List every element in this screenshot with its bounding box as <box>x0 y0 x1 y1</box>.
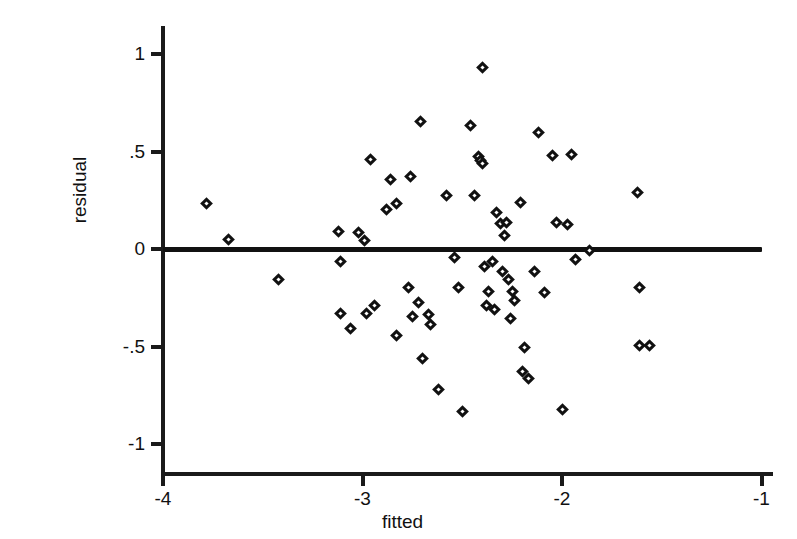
y-axis-tick-label-text: 1 <box>103 44 145 63</box>
x-axis-tick <box>361 476 365 486</box>
y-axis-tick-label: 1 <box>95 44 145 64</box>
x-axis-tick-label: -2 <box>532 489 592 508</box>
x-axis-title-text: fitted <box>382 512 423 532</box>
y-axis-title: residual <box>70 120 90 260</box>
y-axis-tick-label: -1 <box>95 434 145 454</box>
y-axis-tick-label-text: -1 <box>103 434 145 453</box>
y-axis-tick <box>151 442 161 446</box>
zero-reference-line <box>163 247 762 252</box>
x-axis-tick-label: -1 <box>732 489 792 508</box>
x-axis-tick-label: -4 <box>133 489 193 508</box>
y-axis-tick-label: -.5 <box>95 337 145 357</box>
y-axis-tick-label-text: .5 <box>103 142 145 161</box>
x-axis-line <box>161 472 773 476</box>
y-axis-tick <box>151 247 161 251</box>
x-axis-tick-label: -3 <box>333 489 393 508</box>
y-axis-tick-label-text: 0 <box>103 239 145 258</box>
x-axis-tick <box>760 476 764 486</box>
y-axis-tick <box>151 150 161 154</box>
x-axis-title: fitted <box>0 512 797 532</box>
plot-area <box>0 0 797 539</box>
x-axis-tick <box>161 476 165 486</box>
scatter-plot-figure: 1.50-.5-1 -4-3-2-1 fitted residual <box>0 0 797 539</box>
y-axis-tick-label: .5 <box>95 142 145 162</box>
y-axis-tick-label-text: -.5 <box>103 337 145 356</box>
y-axis-tick-label: 0 <box>95 239 145 259</box>
x-axis-tick <box>560 476 564 486</box>
y-axis-tick <box>151 345 161 349</box>
y-axis-tick <box>151 52 161 56</box>
